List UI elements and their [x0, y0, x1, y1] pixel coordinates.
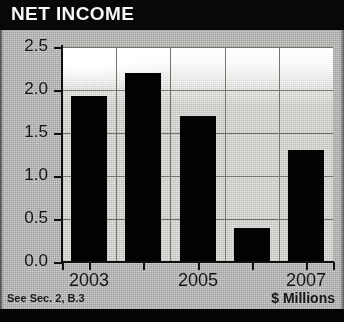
y-tick	[54, 47, 62, 49]
bar-2006	[234, 228, 270, 262]
y-tick	[54, 176, 62, 178]
bar-2005	[180, 116, 216, 262]
chart-screenshot: NET INCOME 0.00.51.01.52.02.5 2003200520…	[0, 0, 344, 322]
y-tick	[54, 219, 62, 221]
gridline-vertical	[279, 47, 280, 262]
source-note: See Sec. 2, B.3	[7, 292, 85, 304]
y-tick	[54, 133, 62, 135]
x-axis-start-tick	[62, 262, 64, 270]
y-tick-label: 0.0	[2, 251, 48, 271]
x-tick-label: 2005	[167, 270, 229, 291]
gridline-vertical	[170, 47, 171, 262]
bar-2003	[71, 96, 107, 262]
x-axis-end-tick	[333, 262, 335, 270]
x-tick	[252, 262, 254, 270]
y-tick-label: 1.5	[2, 122, 48, 142]
gridline-vertical	[225, 47, 226, 262]
x-tick	[143, 262, 145, 270]
y-axis-line	[61, 45, 63, 264]
gridline-vertical	[116, 47, 117, 262]
x-tick	[306, 262, 308, 270]
y-tick-label: 1.0	[2, 165, 48, 185]
chart-title-bar: NET INCOME	[0, 0, 344, 30]
y-tick-label: 2.0	[2, 79, 48, 99]
right-edge-shadow	[340, 18, 344, 322]
y-tick-label: 0.5	[2, 208, 48, 228]
x-tick	[89, 262, 91, 270]
y-tick	[54, 90, 62, 92]
bar-2007	[288, 150, 324, 262]
y-tick-label: 2.5	[2, 36, 48, 56]
gridline-horizontal	[62, 90, 333, 91]
x-tick	[198, 262, 200, 270]
chart-title: NET INCOME	[11, 3, 134, 25]
plot-area	[62, 47, 333, 262]
gridline-horizontal	[62, 47, 333, 48]
x-tick-label: 2007	[275, 270, 337, 291]
x-tick-label: 2003	[58, 270, 120, 291]
units-note: $ Millions	[271, 290, 335, 306]
y-tick	[54, 262, 62, 264]
bar-2004	[125, 73, 161, 262]
bottom-bar	[0, 309, 344, 322]
